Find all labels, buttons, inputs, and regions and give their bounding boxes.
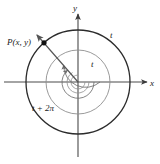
y-axis-label: y (72, 3, 77, 13)
angle-label-coterminal: t + 2π (32, 103, 55, 113)
figure-container: P(x, y) y x t t t + 2π (0, 0, 160, 164)
point-P-marker (41, 40, 46, 45)
angle-diagram: P(x, y) y x t t t + 2π (0, 0, 160, 164)
point-P-label: P(x, y) (6, 37, 31, 47)
x-axis-label: x (149, 78, 154, 88)
